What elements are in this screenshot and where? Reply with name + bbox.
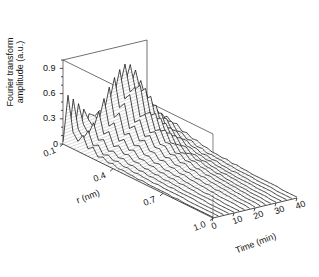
z-axis-title-line2: amplitude (a.u.) [15, 28, 25, 116]
z-axis-title-line1: Fourier transform [5, 28, 15, 116]
figure-3d-waterfall-plot: Fourier transform amplitude (a.u.) 00.30… [0, 0, 319, 277]
z-tick-label: 0.9 [43, 63, 56, 73]
z-tick-label: 0.3 [43, 113, 56, 123]
z-axis-title: Fourier transform amplitude (a.u.) [5, 28, 25, 116]
z-tick-label: 0.6 [43, 88, 56, 98]
